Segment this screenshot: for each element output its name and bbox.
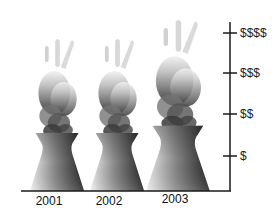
x-tick-label: 2002 xyxy=(84,195,134,207)
y-tick-label: $$$$ xyxy=(240,27,267,39)
x-tick-label: 2001 xyxy=(24,195,74,207)
x-tick-label: 2003 xyxy=(150,193,200,205)
bar-2002 xyxy=(90,39,144,191)
pictorial-bar-chart: $ $$ $$$ $$$$ 2001 2002 2003 xyxy=(0,0,280,216)
bar-2001 xyxy=(30,39,84,191)
chart-canvas xyxy=(0,0,280,216)
bar-2003 xyxy=(146,20,210,191)
y-tick-label: $$ xyxy=(240,108,253,120)
y-tick-label: $ xyxy=(240,150,247,162)
y-tick-label: $$$ xyxy=(240,67,260,79)
